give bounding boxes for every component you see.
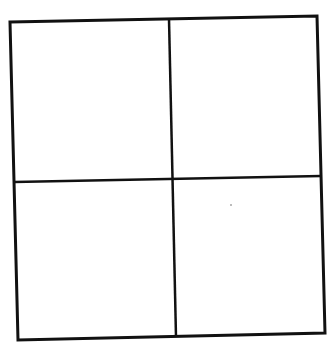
speck [230, 204, 232, 206]
horizontal-divider [14, 176, 321, 182]
grid-diagram [0, 0, 333, 345]
